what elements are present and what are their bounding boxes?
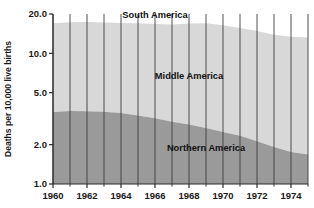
x-tick-label: 1970 bbox=[212, 190, 233, 201]
x-tick-label: 1964 bbox=[110, 190, 132, 201]
x-tick-label: 1960 bbox=[42, 190, 63, 201]
y-axis-title-text: Deaths per 10,000 live births bbox=[3, 41, 13, 157]
x-tick-label: 1972 bbox=[246, 190, 267, 201]
plot-area bbox=[53, 14, 308, 184]
x-tick-label: 1966 bbox=[144, 190, 165, 201]
series-label-northern-america: Northern America bbox=[167, 143, 246, 153]
stacked-area-chart: 1.02.05.010.020.0 1960196219641966196819… bbox=[0, 0, 314, 208]
y-tick-label: 1.0 bbox=[34, 178, 47, 189]
y-tick-label: 2.0 bbox=[34, 139, 47, 150]
chart-container: 1.02.05.010.020.0 1960196219641966196819… bbox=[0, 0, 314, 208]
y-tick-label: 20.0 bbox=[29, 8, 48, 19]
x-tick-label: 1974 bbox=[280, 190, 302, 201]
y-tick-label: 10.0 bbox=[29, 48, 48, 59]
series-label-middle-america: Middle America bbox=[155, 71, 224, 81]
y-axis-title: Deaths per 10,000 live births bbox=[3, 41, 13, 157]
x-tick-label: 1968 bbox=[178, 190, 199, 201]
x-tick-label: 1962 bbox=[76, 190, 97, 201]
series-label-south-america: South America bbox=[122, 10, 188, 20]
y-tick-label: 5.0 bbox=[34, 87, 47, 98]
